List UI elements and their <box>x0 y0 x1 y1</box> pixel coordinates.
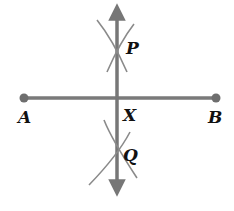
endpoint-a-dot <box>20 94 29 103</box>
label-x: X <box>123 107 136 124</box>
label-b: B <box>208 109 222 126</box>
label-a: A <box>18 109 31 126</box>
diagram-canvas <box>0 0 234 211</box>
perpendicular-bisector-diagram: A B X P Q <box>0 0 234 211</box>
endpoint-b-dot <box>212 94 221 103</box>
arc-p-1 <box>97 20 127 72</box>
label-q: Q <box>123 147 138 164</box>
label-p: P <box>126 40 139 57</box>
